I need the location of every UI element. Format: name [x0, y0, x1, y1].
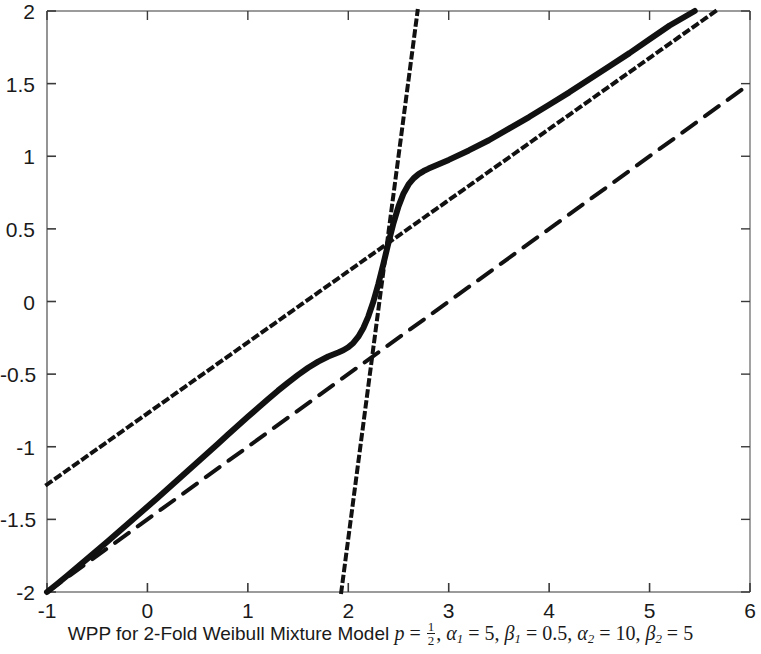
y-tick-label-3: -0.5: [0, 364, 35, 385]
caption-beta1-symbol: β: [505, 622, 515, 644]
y-tick-label-2: -1: [0, 436, 35, 457]
y-tick-label-4: 0: [0, 291, 35, 312]
plot-canvas: [0, 0, 761, 654]
caption-p-numerator: 1: [427, 620, 436, 634]
x-tick-label-0: -1: [38, 600, 57, 621]
caption-alpha1-symbol: α: [446, 622, 457, 644]
caption-equals-5: =: [662, 622, 683, 644]
x-tick-label-2: 1: [242, 600, 254, 621]
y-tick-label-1: -1.5: [0, 509, 35, 530]
caption-comma-1: ,: [436, 622, 446, 644]
caption-prefix: WPP for 2-Fold Weibull Mixture Model: [68, 623, 395, 644]
caption-beta1-value: 0.5: [542, 622, 567, 644]
y-tick-label-6: 1: [0, 146, 35, 167]
series-asymptote-dotted-shallow: [47, 11, 716, 485]
series-asymptote-dashed: [47, 84, 750, 592]
caption-comma-4: ,: [635, 622, 645, 644]
caption-p-denominator: 2: [427, 634, 436, 647]
series-asymptote-dotted-steep: [341, 11, 417, 592]
caption-alpha1-value: 5: [485, 622, 495, 644]
caption-p-symbol: p: [394, 622, 404, 644]
x-tick-label-5: 4: [543, 600, 555, 621]
caption-beta2-value: 5: [683, 622, 693, 644]
caption-comma-3: ,: [567, 622, 577, 644]
y-tick-label-8: 2: [0, 1, 35, 22]
caption-alpha2-symbol: α: [577, 622, 588, 644]
y-tick-label-0: -2: [0, 582, 35, 603]
figure-caption: WPP for 2-Fold Weibull Mixture Model p =…: [0, 620, 761, 648]
x-tick-label-7: 6: [744, 600, 756, 621]
y-tick-label-7: 1.5: [0, 73, 35, 94]
wpp-plot-figure: -2-1.5-1-0.500.511.52 -10123456 WPP for …: [0, 0, 761, 654]
x-tick-label-3: 2: [342, 600, 354, 621]
series-mixture-wpp: [47, 11, 695, 592]
x-tick-label-4: 3: [443, 600, 455, 621]
caption-comma-2: ,: [495, 622, 505, 644]
x-tick-label-6: 5: [644, 600, 656, 621]
caption-alpha2-value: 10: [615, 622, 635, 644]
caption-p-fraction: 12: [427, 620, 436, 648]
caption-equals-1: =: [404, 622, 425, 644]
caption-equals-3: =: [521, 622, 542, 644]
data-series: [47, 11, 750, 592]
y-tick-label-5: 0.5: [0, 218, 35, 239]
caption-beta2-symbol: β: [645, 622, 655, 644]
caption-equals-4: =: [594, 622, 615, 644]
caption-equals-2: =: [463, 622, 484, 644]
x-tick-label-1: 0: [142, 600, 154, 621]
